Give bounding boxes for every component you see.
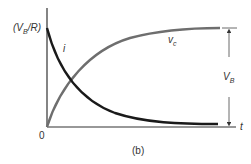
origin-label: 0 [39,130,45,141]
voltage-curve-label: vc [168,34,177,47]
x-axis-label: t [240,121,243,132]
voltage-curve [47,28,220,127]
current-curve [47,28,218,124]
current-curve-label: i [63,43,65,54]
figure-caption: (b) [132,145,144,156]
vb-marker-label: VB [223,71,234,84]
y-axis-top-label: (VB/R) [13,22,41,35]
